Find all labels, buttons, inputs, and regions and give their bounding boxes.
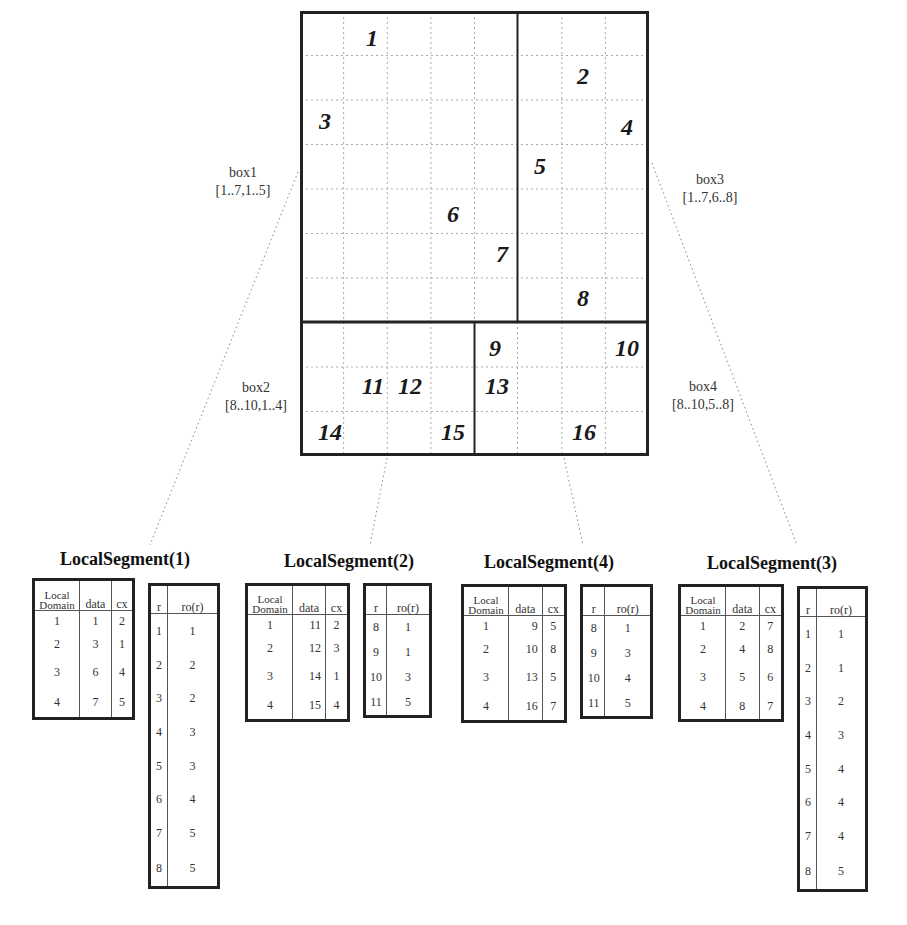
- cell-number: 13: [485, 373, 509, 400]
- cell-number: 14: [318, 419, 342, 446]
- cell: 5: [816, 853, 866, 890]
- cell-number: 5: [534, 153, 546, 180]
- cell: 3: [387, 665, 431, 690]
- cell: 3: [799, 685, 817, 719]
- header-r: r: [799, 588, 817, 617]
- cell: 7: [799, 820, 817, 854]
- cell: 4: [34, 689, 80, 719]
- cell: 2: [326, 615, 349, 637]
- cell-number: 12: [398, 373, 422, 400]
- cell: 9: [509, 616, 543, 638]
- cell: 5: [726, 662, 760, 694]
- cell: 10: [365, 665, 387, 690]
- cell: 3: [34, 657, 80, 689]
- cell: 11: [293, 615, 326, 637]
- header-r: r: [150, 585, 168, 614]
- cell: 11: [365, 689, 387, 716]
- header-domain: Domain: [683, 605, 723, 615]
- cell: 2: [34, 633, 80, 657]
- cell: 2: [168, 682, 219, 716]
- box4-label: box4 [8..10,5..8]: [653, 378, 753, 414]
- cell: 3: [605, 641, 652, 666]
- header-domain: Domain: [37, 600, 77, 610]
- box1-label: box1 [1..7,1..5]: [193, 164, 293, 200]
- cell: 13: [509, 662, 543, 694]
- header-data: data: [726, 586, 760, 616]
- cell-number: 9: [489, 335, 501, 362]
- ro-table: rro(r) 81 91 103 115: [363, 583, 432, 718]
- cell-number: 2: [577, 63, 589, 90]
- cell: 1: [326, 661, 349, 693]
- header-cx: cx: [542, 586, 565, 616]
- box-name: box4: [653, 378, 753, 396]
- ro-table: rro(r) 81 93 104 115: [580, 584, 653, 719]
- cell: 1: [150, 614, 168, 649]
- cell: 8: [582, 616, 605, 642]
- cell: 7: [759, 616, 782, 638]
- header-cx: cx: [759, 586, 782, 616]
- cell: 4: [799, 719, 817, 753]
- header-ro: ro(r): [387, 585, 431, 615]
- header-data: data: [509, 586, 543, 616]
- cell: 8: [759, 638, 782, 662]
- cell: 8: [542, 638, 565, 662]
- cell: 4: [726, 638, 760, 662]
- cell: 16: [509, 694, 543, 722]
- cell: 1: [34, 611, 80, 633]
- cell: 7: [80, 689, 112, 719]
- box-name: box1: [193, 164, 293, 182]
- cell: 3: [150, 682, 168, 716]
- cell: 2: [463, 638, 509, 662]
- cell: 3: [326, 637, 349, 661]
- cell: 4: [816, 752, 866, 786]
- box2-label: box2 [8..10,1..4]: [206, 379, 306, 415]
- segment-title: LocalSegment(3): [707, 553, 837, 574]
- cell: 2: [680, 638, 726, 662]
- header-cx: cx: [111, 580, 133, 611]
- segment-title: LocalSegment(1): [60, 549, 190, 570]
- cell: 7: [150, 817, 168, 851]
- cell: 2: [111, 611, 133, 633]
- box-name: box3: [660, 171, 760, 189]
- cell: 9: [365, 640, 387, 665]
- cell: 4: [168, 783, 219, 817]
- cell: 8: [726, 694, 760, 721]
- cell: 2: [247, 637, 293, 661]
- cell: 9: [582, 641, 605, 666]
- ro-table: rro(r) 11 22 32 43 53 64 75 85: [148, 583, 220, 889]
- cell: 3: [168, 749, 219, 783]
- cell: 1: [111, 633, 133, 657]
- cell-number: 8: [577, 285, 589, 312]
- cell: 4: [150, 716, 168, 750]
- box-range: [1..7,1..5]: [193, 182, 293, 200]
- segment-title: LocalSegment(4): [484, 552, 614, 573]
- cell: 7: [759, 694, 782, 721]
- header-ro: ro(r): [168, 585, 219, 614]
- diagram-canvas: 1 2 3 4 5 6 7 8 9 10 11 12 13 14 15 16 b…: [0, 0, 907, 925]
- cell-number: 11: [362, 373, 385, 400]
- header-cx: cx: [326, 585, 349, 615]
- cell: 1: [168, 614, 219, 649]
- cell-number: 15: [441, 419, 465, 446]
- cell: 2: [799, 651, 817, 685]
- cell: 12: [293, 637, 326, 661]
- cell: 3: [816, 719, 866, 753]
- header-data: data: [80, 580, 112, 611]
- cell: 1: [816, 617, 866, 652]
- cell: 1: [387, 615, 431, 641]
- header-domain: Domain: [466, 605, 506, 615]
- cell: 6: [759, 662, 782, 694]
- segment-title: LocalSegment(2): [284, 551, 414, 572]
- cell-number: 7: [496, 241, 508, 268]
- cell-number: 10: [615, 335, 639, 362]
- cell-number: 4: [621, 114, 633, 141]
- box-range: [8..10,1..4]: [206, 397, 306, 415]
- header-ro: ro(r): [605, 586, 652, 616]
- header-ro: ro(r): [816, 588, 866, 617]
- cell-number: 6: [447, 201, 459, 228]
- box-name: box2: [206, 379, 306, 397]
- local-domain-table: LocalDomain data cx 112 231 364 475: [32, 578, 135, 720]
- cell: 4: [680, 694, 726, 721]
- cell: 6: [80, 657, 112, 689]
- cell: 4: [326, 693, 349, 721]
